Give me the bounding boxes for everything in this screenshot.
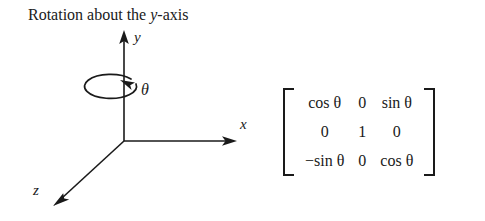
y-axis-label: y: [134, 30, 141, 45]
matrix-grid: cos θ 0 sin θ 0 1 0 −sin θ 0 cos θ: [298, 88, 420, 176]
matrix-right-bracket: [424, 88, 435, 176]
matrix-row: cos θ 0 sin θ: [298, 88, 420, 117]
matrix-cell: −sin θ: [298, 147, 351, 176]
figure-root: Rotation about the y-axis: [0, 0, 485, 221]
matrix-cell: 1: [351, 117, 373, 146]
axes-diagram: y x z θ: [0, 0, 270, 221]
z-axis: [53, 141, 124, 206]
matrix-row: −sin θ 0 cos θ: [298, 147, 420, 176]
rotation-ellipse-icon: [85, 74, 137, 98]
matrix-cell: cos θ: [373, 147, 420, 176]
matrix-cell: 0: [373, 117, 420, 146]
z-axis-label: z: [33, 183, 39, 198]
matrix-left-bracket: [283, 88, 294, 176]
rotation-matrix: cos θ 0 sin θ 0 1 0 −sin θ 0 cos θ: [283, 88, 435, 176]
matrix-cell: 0: [351, 147, 373, 176]
matrix-cell: 0: [351, 88, 373, 117]
matrix-cell: sin θ: [373, 88, 420, 117]
theta-angle-label: θ: [141, 82, 149, 98]
matrix-cell: cos θ: [298, 88, 351, 117]
x-axis-label: x: [240, 117, 247, 132]
matrix-row: 0 1 0: [298, 117, 420, 146]
matrix-cell: 0: [298, 117, 351, 146]
x-axis: [124, 136, 237, 146]
